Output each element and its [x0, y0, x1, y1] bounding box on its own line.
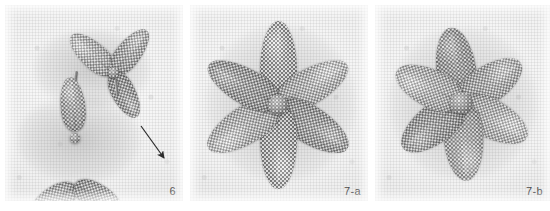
panel-label-7b: 7-b	[526, 186, 543, 197]
beaded-flower-hub	[450, 92, 472, 114]
figure-panel-7b: 7-b	[375, 5, 550, 201]
panel-label-7a: 7-a	[344, 186, 361, 197]
beaded-flower-hub	[108, 67, 119, 78]
panel-label-6: 6	[169, 186, 176, 197]
figure-panel-6: 6	[5, 5, 183, 201]
beaded-flower-hub	[268, 95, 288, 115]
figure-strip: 6 7-a 7-b	[0, 0, 550, 211]
beaded-flower-hub	[70, 133, 80, 143]
figure-panel-7a: 7-a	[190, 5, 368, 201]
